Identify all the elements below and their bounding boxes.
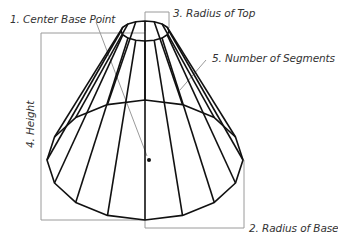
label-radius-of-top: 3. Radius of Top	[173, 7, 255, 19]
segment-edge	[154, 40, 182, 215]
label-height: 4. Height	[24, 101, 36, 148]
segment-edge	[167, 27, 235, 137]
label-radius-of-base: 2. Radius of Base	[249, 222, 338, 234]
label-number-of-segments: 5. Number of Segments	[212, 52, 335, 64]
cone-wireframe	[47, 21, 243, 220]
segment-edge	[55, 27, 123, 137]
center-point-leader	[96, 22, 147, 156]
center-base-point-dot	[147, 158, 151, 162]
height-guide	[41, 33, 145, 220]
guide-lines	[41, 12, 244, 228]
segment-edge	[108, 40, 136, 215]
label-center-base-point: 1. Center Base Point	[10, 13, 115, 25]
